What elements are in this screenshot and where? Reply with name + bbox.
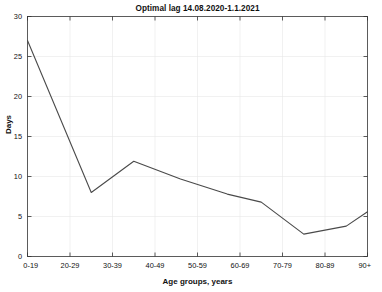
y-tick-label: 30 [0,12,22,21]
y-tick-label: 15 [0,132,22,141]
y-tick-label: 20 [0,92,22,101]
y-tick-label: 25 [0,52,22,61]
x-tick-label: 50-59 [188,261,207,270]
chart-figure: Optimal lag 14.08.2020-1.1.2021 Days Age… [0,0,382,292]
x-tick-label: 30-39 [103,261,122,270]
x-tick-label: 80-89 [316,261,335,270]
y-tick-label: 5 [0,212,22,221]
gridlines [28,17,368,257]
x-tick-label: 20-29 [61,261,80,270]
x-tick-label: 0-19 [23,261,38,270]
x-tick-label: 90+ [358,261,371,270]
plot-canvas [0,0,382,292]
y-tick-label: 0 [0,252,22,261]
x-tick-label: 60-69 [231,261,250,270]
x-tick-label: 40-49 [146,261,165,270]
y-tick-label: 10 [0,172,22,181]
x-tick-label: 70-79 [273,261,292,270]
